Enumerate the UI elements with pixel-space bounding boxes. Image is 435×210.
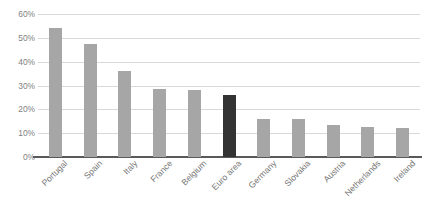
bar bbox=[257, 119, 270, 157]
y-axis-tick-label: 40% bbox=[3, 57, 35, 65]
y-axis-tick-label: 30% bbox=[3, 81, 35, 89]
y-axis-tick-label: 0% bbox=[3, 153, 35, 161]
bar-chart: 60%50%40%30%20%10%0% PortugalSpainItalyF… bbox=[0, 0, 435, 210]
y-axis-tick-label: 50% bbox=[3, 34, 35, 42]
y-axis-tick-label: 10% bbox=[3, 129, 35, 137]
bar bbox=[292, 119, 305, 157]
bar bbox=[188, 90, 201, 157]
y-axis-tick-labels: 60%50%40%30%20%10%0% bbox=[0, 14, 35, 157]
bar bbox=[223, 95, 236, 157]
bar bbox=[361, 127, 374, 158]
bar-series bbox=[38, 14, 420, 157]
bar bbox=[153, 89, 166, 157]
y-axis-tick-label: 20% bbox=[3, 105, 35, 113]
bar bbox=[327, 125, 340, 157]
bar bbox=[84, 44, 97, 157]
bar bbox=[49, 28, 62, 157]
bar bbox=[118, 71, 131, 157]
x-axis-category-labels: PortugalSpainItalyFranceBelgiumEuro area… bbox=[38, 159, 420, 210]
bar bbox=[396, 128, 409, 157]
y-axis-tick-label: 60% bbox=[3, 10, 35, 18]
